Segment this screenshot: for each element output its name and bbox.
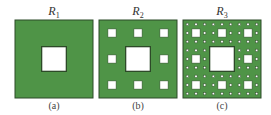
carpet-level-2 (98, 19, 178, 99)
panel-caption: (c) (182, 100, 262, 111)
panel-a: R1 (a) (14, 0, 94, 115)
panel-title: R2 (98, 4, 178, 20)
carpet-level-1 (14, 19, 94, 99)
panel-c: R3 (c) (182, 0, 262, 115)
panel-caption: (b) (98, 100, 178, 111)
panel-title: R3 (182, 4, 262, 20)
carpet-level-3 (182, 19, 262, 99)
panel-caption: (a) (14, 100, 94, 111)
panel-title: R1 (14, 4, 94, 20)
panel-b: R2 (b) (98, 0, 178, 115)
